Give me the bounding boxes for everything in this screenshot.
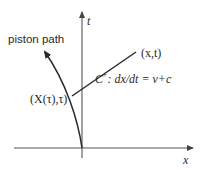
x-axis-label: x (183, 154, 188, 166)
characteristic-equation: : dx/dt = v+c (107, 72, 171, 86)
characteristic-sup: + (102, 70, 107, 79)
start-point-label: (X(τ),τ) (30, 93, 67, 105)
piston-path-label: piston path (8, 34, 64, 46)
characteristic-diagram: t x piston path (x,t) (X(τ),τ) C+: dx/dt… (0, 0, 208, 170)
end-point-label: (x,t) (141, 47, 161, 59)
t-axis-label: t (87, 15, 90, 27)
characteristic-label: C+: dx/dt = v+c (95, 73, 171, 85)
diagram-svg (0, 0, 208, 170)
